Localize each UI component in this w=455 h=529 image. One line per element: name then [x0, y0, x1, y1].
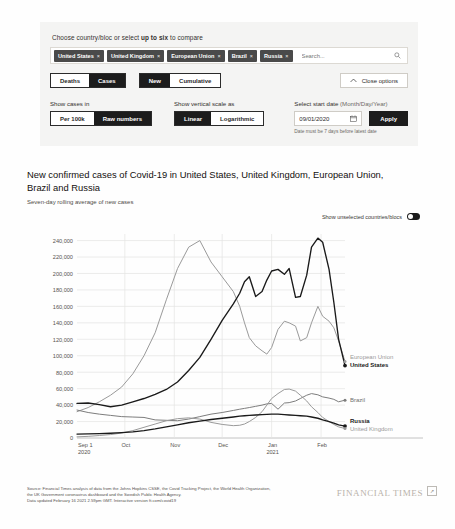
search-icon[interactable]: [394, 52, 401, 59]
close-icon[interactable]: ×: [285, 53, 288, 59]
show-cases-label: Show cases in: [50, 100, 152, 107]
chip-label: United Kingdom: [111, 53, 154, 59]
country-chip-bar[interactable]: United States × United Kingdom × Europea…: [50, 47, 408, 64]
show-unselected-switch[interactable]: [407, 213, 420, 220]
date-row: 09/01/2020 Apply: [294, 111, 408, 126]
options-panel: Choose country/bloc or select up to six …: [40, 22, 418, 146]
svg-text:100,000: 100,000: [53, 353, 73, 359]
series-label-united-states: United States: [350, 362, 389, 368]
close-icon[interactable]: ×: [97, 53, 100, 59]
vertical-scale-group: Show vertical scale as Linear Logarithmi…: [174, 100, 264, 126]
series-label-european-union: European Union: [350, 354, 393, 360]
close-icon[interactable]: ×: [217, 53, 220, 59]
chart-subtitle: Seven-day rolling average of new cases: [27, 199, 432, 205]
svg-text:0: 0: [70, 435, 73, 441]
svg-text:Feb: Feb: [317, 442, 327, 448]
series-endpoint-european-union: [344, 360, 347, 363]
chip-european-union[interactable]: European Union ×: [167, 50, 224, 62]
start-date-label: Select start date (Month/Day/Year): [294, 100, 408, 107]
series-endpoint-united-states: [343, 364, 347, 368]
chip-label: Brazil: [232, 53, 247, 59]
chart-footer: Source: Financial Times analysis of data…: [27, 486, 437, 504]
svg-text:Nov: Nov: [170, 442, 180, 448]
cases-unit-toggle[interactable]: Per 100k Raw numbers: [50, 111, 152, 126]
show-unselected-row[interactable]: Show unselected countries/blocs: [27, 213, 432, 220]
chevron-up-icon: [350, 78, 357, 83]
svg-text:2020: 2020: [78, 449, 90, 455]
search-area[interactable]: [296, 52, 404, 60]
close-options-label: Close options: [362, 78, 398, 84]
toggle-per-100k[interactable]: Per 100k: [51, 112, 94, 125]
series-line-european-union: [77, 241, 345, 412]
start-date-value: 09/01/2020: [299, 116, 329, 122]
source-line-3: Data updated February 16 2021 2.59pm GMT…: [27, 498, 327, 504]
svg-text:40,000: 40,000: [56, 402, 73, 408]
calendar-icon[interactable]: [350, 115, 357, 122]
close-options-button[interactable]: Close options: [340, 73, 408, 88]
svg-text:120,000: 120,000: [53, 337, 73, 343]
heading-prefix: Choose country/bloc or select: [52, 34, 141, 41]
series-endpoint-united-kingdom: [344, 427, 347, 430]
apply-button[interactable]: Apply: [369, 111, 408, 126]
toggle-new[interactable]: New: [140, 74, 170, 87]
chip-united-kingdom[interactable]: United Kingdom ×: [107, 50, 164, 62]
svg-text:140,000: 140,000: [53, 320, 73, 326]
chip-united-states[interactable]: United States ×: [54, 50, 104, 62]
series-line-united-states: [77, 238, 345, 407]
count-toggle[interactable]: New Cumulative: [139, 73, 222, 88]
start-date-label-main: Select start date: [294, 100, 338, 107]
series-label-united-kingdom: United Kingdom: [350, 426, 393, 432]
primary-toggle-row: Deaths Cases New Cumulative Close option…: [50, 73, 408, 88]
svg-text:Sep 1: Sep 1: [78, 442, 93, 448]
svg-text:180,000: 180,000: [53, 287, 73, 293]
series-label-brazil: Brazil: [350, 397, 365, 403]
scale-toggle[interactable]: Linear Logarithmic: [174, 111, 264, 126]
toggle-raw-numbers[interactable]: Raw numbers: [94, 112, 151, 125]
svg-text:Jan: Jan: [268, 442, 277, 448]
svg-text:200,000: 200,000: [53, 271, 73, 277]
svg-text:Dec: Dec: [218, 442, 228, 448]
chip-label: United States: [58, 53, 94, 59]
svg-text:80,000: 80,000: [56, 370, 73, 376]
date-hint: Date must be 7 days before latest date: [294, 129, 408, 134]
svg-text:20,000: 20,000: [56, 419, 73, 425]
choose-country-heading: Choose country/bloc or select up to six …: [52, 34, 408, 41]
chart-page: Choose country/bloc or select up to six …: [0, 0, 455, 529]
start-date-group: Select start date (Month/Day/Year) 09/01…: [294, 100, 408, 134]
close-icon[interactable]: ×: [250, 53, 253, 59]
source-note: Source: Financial Times analysis of data…: [27, 486, 327, 504]
series-endpoint-brazil: [344, 399, 347, 402]
line-chart-svg: 020,00040,00060,00080,000100,000120,0001…: [27, 226, 432, 476]
chip-label: Russia: [264, 53, 282, 59]
svg-text:2021: 2021: [266, 449, 278, 455]
start-date-input[interactable]: 09/01/2020: [294, 111, 362, 126]
show-cases-group: Show cases in Per 100k Raw numbers: [50, 100, 152, 126]
close-icon[interactable]: ×: [157, 53, 160, 59]
secondary-options-row: Show cases in Per 100k Raw numbers Show …: [50, 100, 408, 134]
toggle-linear[interactable]: Linear: [175, 112, 211, 125]
chart-block: New confirmed cases of Covid-19 in Unite…: [27, 168, 432, 476]
series-line-russia: [77, 414, 345, 434]
toggle-logarithmic[interactable]: Logarithmic: [211, 112, 263, 125]
switch-knob: [408, 214, 413, 219]
svg-text:60,000: 60,000: [56, 386, 73, 392]
heading-suffix: to compare: [168, 34, 203, 41]
svg-text:160,000: 160,000: [53, 304, 73, 310]
share-icon[interactable]: ↗: [427, 486, 437, 496]
metric-toggle[interactable]: Deaths Cases: [50, 73, 126, 88]
search-input[interactable]: [300, 52, 374, 60]
chip-brazil[interactable]: Brazil ×: [228, 50, 257, 62]
start-date-label-sub: (Month/Day/Year): [340, 100, 388, 107]
series-label-russia: Russia: [350, 418, 370, 424]
toggle-cumulative[interactable]: Cumulative: [170, 74, 220, 87]
svg-text:220,000: 220,000: [53, 254, 73, 260]
financial-times-logo: FINANCIAL TIMES: [337, 488, 423, 498]
show-unselected-label: Show unselected countries/blocs: [322, 214, 402, 220]
svg-text:Oct: Oct: [122, 442, 131, 448]
svg-text:240,000: 240,000: [53, 238, 73, 244]
chip-label: European Union: [171, 53, 214, 59]
heading-bold: up to six: [141, 34, 168, 41]
toggle-cases[interactable]: Cases: [89, 74, 125, 87]
toggle-deaths[interactable]: Deaths: [51, 74, 89, 87]
chip-russia[interactable]: Russia ×: [260, 50, 293, 62]
